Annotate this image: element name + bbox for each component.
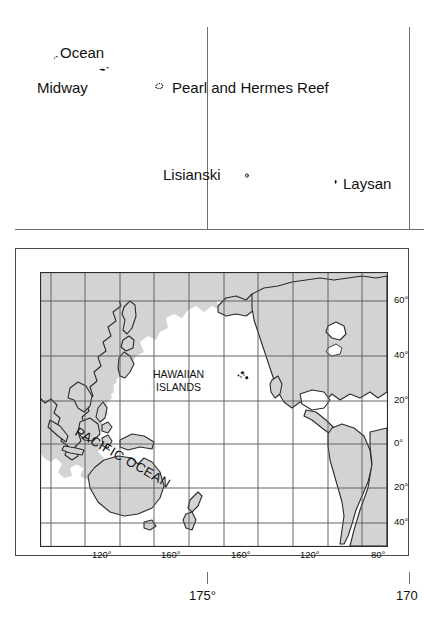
longitude-label-4: 120° xyxy=(300,550,320,560)
detail-map-northwestern-hawaiian-islands: Ocean Midway Pearl and Hermes Reef Lisia… xyxy=(0,0,424,240)
graticule-vertical-170 xyxy=(409,27,410,230)
hawaiian-islands-line1: HAWAIIAN xyxy=(153,368,204,380)
longitude-label-2: 160° xyxy=(161,550,181,560)
graticule-horizontal xyxy=(15,229,424,230)
laysan-island-marker xyxy=(332,176,342,188)
place-label-laysan: Laysan xyxy=(343,176,391,191)
lisianski-island-marker xyxy=(242,170,254,182)
graticule-vertical-175 xyxy=(207,27,208,230)
world-map-svg xyxy=(40,272,388,547)
latitude-label-40n: 40° xyxy=(394,350,408,360)
latitude-label-20s: 20° xyxy=(394,482,408,492)
locator-inset-frame: HAWAIIAN ISLANDS PACIFIC OCEAN 60° 40° 2… xyxy=(15,248,409,556)
outer-scale-label-175: 175° xyxy=(189,589,216,603)
outer-scale-label-170: 170 xyxy=(396,589,418,603)
latitude-label-0: 0° xyxy=(394,438,403,448)
place-label-midway: Midway xyxy=(37,80,88,95)
longitude-label-1: 120° xyxy=(92,550,112,560)
latitude-label-20n: 20° xyxy=(394,395,408,405)
longitude-label-5: 80° xyxy=(371,550,385,560)
world-map: HAWAIIAN ISLANDS PACIFIC OCEAN 60° 40° 2… xyxy=(40,272,388,547)
pearl-and-hermes-reef-marker xyxy=(152,78,170,94)
outer-tick-175 xyxy=(207,572,208,584)
midway-atoll-marker xyxy=(97,64,113,78)
latitude-label-60n: 60° xyxy=(394,295,408,305)
place-label-pearl-and-hermes-reef: Pearl and Hermes Reef xyxy=(172,80,329,95)
hawaiian-islands-line2: ISLANDS xyxy=(156,381,201,393)
hawaiian-islands-label: HAWAIIAN ISLANDS xyxy=(153,368,204,393)
longitude-label-3: 160° xyxy=(231,550,251,560)
place-label-lisianski: Lisianski xyxy=(163,167,221,182)
latitude-label-40s: 40° xyxy=(394,517,408,527)
outer-tick-170 xyxy=(409,572,410,584)
place-label-ocean: Ocean xyxy=(60,45,104,60)
